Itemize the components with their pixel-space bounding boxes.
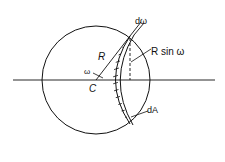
d-omega-label: dω [135, 16, 147, 26]
sphere-zone-diagram: dω R R sin ω ω C dA [0, 0, 225, 162]
r-label: R [98, 51, 105, 62]
da-label: dA [147, 105, 158, 115]
omega-label: ω [84, 67, 90, 76]
r-sin-omega-label: R sin ω [151, 46, 185, 57]
c-label: C [89, 83, 97, 94]
